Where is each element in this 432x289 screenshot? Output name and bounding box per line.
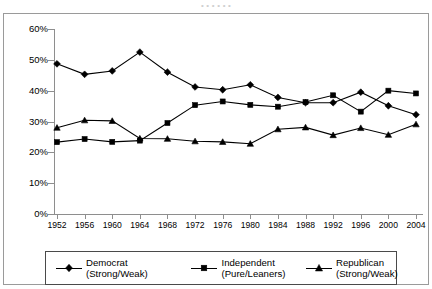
legend-label-democrat: Democrat (Strong/Weak) bbox=[82, 257, 148, 280]
data-point bbox=[275, 104, 280, 109]
data-point bbox=[247, 81, 254, 88]
clipped-header-text: • • • • • • bbox=[0, 0, 432, 11]
data-point bbox=[109, 68, 116, 75]
square-marker-icon bbox=[191, 262, 217, 274]
plot-area: 0%10%20%30%40%50%60% 1952195619601964196… bbox=[4, 14, 430, 229]
data-point bbox=[54, 60, 61, 67]
data-point bbox=[110, 139, 115, 144]
legend-label-democrat-line1: Democrat bbox=[86, 257, 128, 268]
legend-label-independent-line2: (Pure/Leaners) bbox=[221, 268, 285, 280]
series-square bbox=[55, 88, 419, 144]
legend-label-republican-line1: Republican bbox=[336, 257, 384, 268]
data-point bbox=[248, 102, 253, 107]
legend-item-democrat[interactable]: Democrat (Strong/Weak) bbox=[46, 252, 189, 284]
data-point bbox=[165, 121, 170, 126]
data-point bbox=[385, 102, 392, 109]
data-point bbox=[303, 100, 308, 105]
data-point bbox=[81, 71, 88, 78]
data-point bbox=[413, 111, 420, 118]
legend-label-republican: Republican (Strong/Weak) bbox=[332, 257, 398, 280]
legend-label-independent: Independent (Pure/Leaners) bbox=[217, 257, 285, 280]
data-point bbox=[331, 93, 336, 98]
data-point bbox=[386, 88, 391, 93]
data-point bbox=[330, 99, 337, 106]
data-point bbox=[413, 121, 419, 127]
triangle-marker-icon bbox=[306, 262, 332, 274]
chart-legend: Democrat (Strong/Weak) Independent (Pure… bbox=[45, 251, 397, 285]
series-line bbox=[57, 52, 416, 115]
data-point bbox=[275, 94, 282, 101]
data-point bbox=[414, 91, 419, 96]
data-point bbox=[358, 125, 364, 131]
legend-label-republican-line2: (Strong/Weak) bbox=[336, 268, 398, 280]
data-point bbox=[82, 137, 87, 142]
data-point bbox=[358, 109, 363, 114]
series-diamond bbox=[54, 49, 420, 118]
series-layer bbox=[4, 14, 430, 229]
legend-label-independent-line1: Independent bbox=[221, 257, 274, 268]
data-point bbox=[220, 99, 225, 104]
data-point bbox=[55, 140, 60, 145]
chart-frame: 0%10%20%30%40%50%60% 1952195619601964196… bbox=[3, 13, 429, 285]
data-point bbox=[357, 89, 364, 96]
series-line bbox=[57, 91, 416, 142]
screenshot-root: • • • • • • 0%10%20%30%40%50%60% 1952195… bbox=[0, 0, 432, 289]
legend-item-republican[interactable]: Republican (Strong/Weak) bbox=[304, 252, 396, 284]
legend-label-democrat-line2: (Strong/Weak) bbox=[86, 268, 148, 280]
data-point bbox=[192, 84, 199, 91]
data-point bbox=[193, 103, 198, 108]
legend-item-independent[interactable]: Independent (Pure/Leaners) bbox=[189, 252, 304, 284]
diamond-marker-icon bbox=[56, 262, 82, 274]
data-point bbox=[219, 86, 226, 93]
